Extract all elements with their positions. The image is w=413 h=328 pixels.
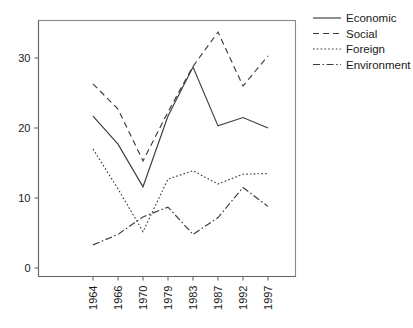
chart-canvas: 0102030 19641966197019791983198719921997…	[0, 0, 413, 328]
series-line-economic	[93, 67, 268, 187]
x-tick-label: 1997	[262, 286, 274, 310]
y-tick-label: 0	[24, 262, 30, 274]
x-tick-label: 1979	[162, 286, 174, 310]
data-series-group	[93, 32, 268, 245]
chart-legend: EconomicSocialForeignEnvironment	[313, 12, 411, 71]
x-tick-label: 1983	[187, 286, 199, 310]
x-tick-label: 1970	[137, 286, 149, 310]
y-tick-label: 20	[18, 122, 30, 134]
x-tick-label: 1966	[112, 286, 124, 310]
x-tick-label: 1964	[87, 286, 99, 310]
series-line-social	[93, 32, 268, 161]
legend-label-foreign: Foreign	[346, 43, 385, 55]
x-tick-label: 1987	[212, 286, 224, 310]
line-chart-figure: 0102030 19641966197019791983198719921997…	[0, 0, 413, 328]
y-tick-label: 10	[18, 192, 30, 204]
legend-label-social: Social	[346, 28, 377, 40]
series-line-foreign	[93, 149, 268, 232]
x-axis: 19641966197019791983198719921997	[39, 277, 296, 310]
legend-label-environment: Environment	[346, 59, 411, 71]
x-tick-label: 1992	[237, 286, 249, 310]
plot-box-border	[39, 21, 296, 277]
y-axis: 0102030	[18, 21, 38, 277]
y-tick-label: 30	[18, 52, 30, 64]
series-line-environment	[93, 188, 268, 245]
plot-frame	[39, 21, 296, 277]
legend-label-economic: Economic	[346, 12, 397, 24]
